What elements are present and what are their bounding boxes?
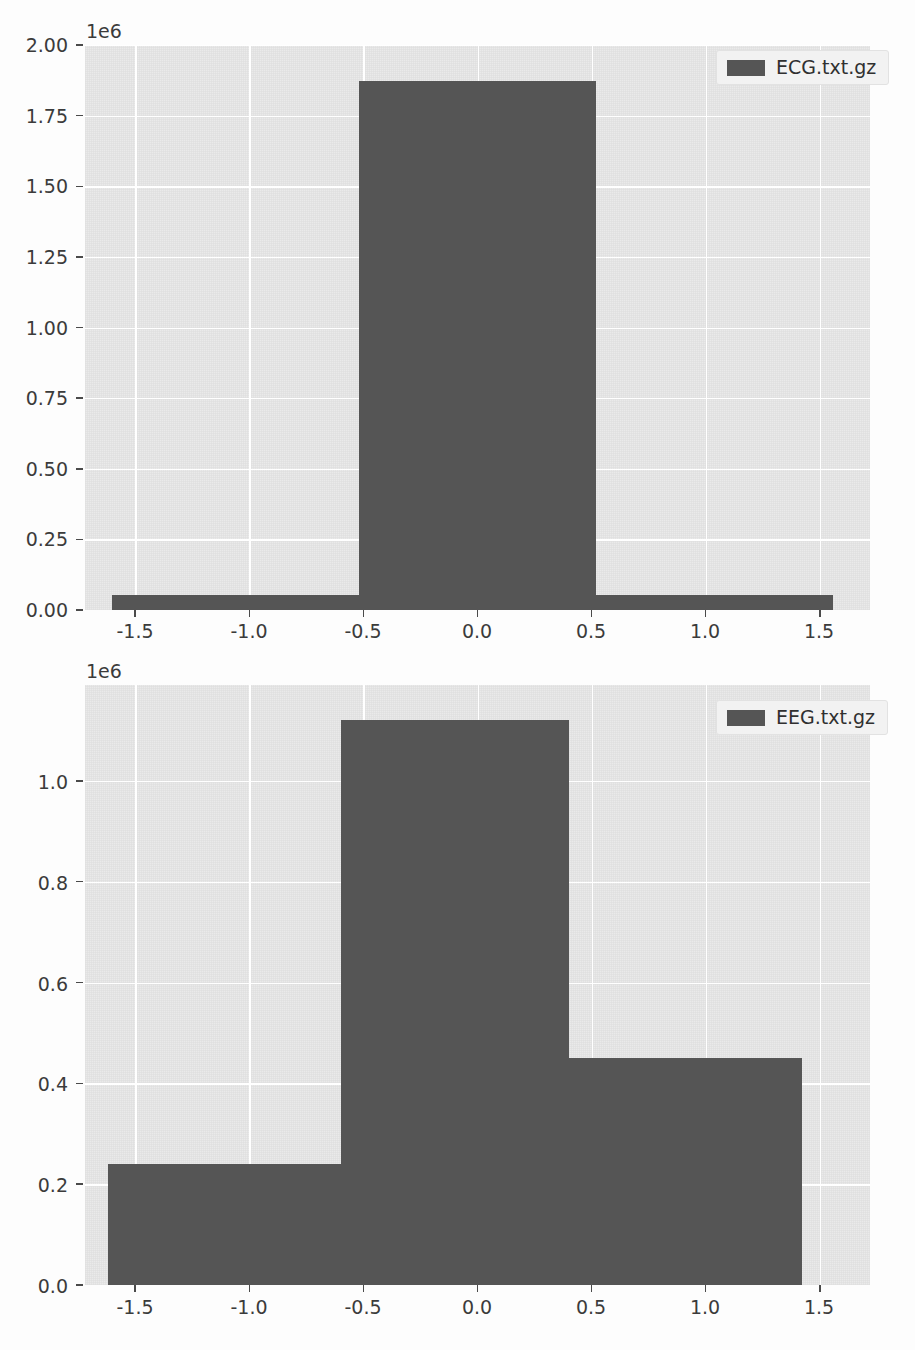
- xtick-label: -1.0: [209, 1298, 289, 1317]
- ytick-mark: [76, 397, 83, 399]
- ytick-label: 0.8: [12, 874, 68, 893]
- y-offset-text-ecg: 1e6: [86, 22, 122, 41]
- histogram-bar: [341, 720, 569, 1285]
- xtick-label: -0.5: [323, 622, 403, 641]
- xtick-mark: [363, 610, 365, 617]
- ytick-label: 0.00: [8, 601, 68, 620]
- xtick-label: 1.5: [779, 622, 859, 641]
- legend-swatch-icon: [727, 710, 765, 726]
- ytick-mark: [76, 186, 83, 188]
- ytick-label: 1.0: [12, 773, 68, 792]
- xtick-mark: [819, 610, 821, 617]
- histogram-bar: [359, 81, 596, 610]
- ytick-mark: [76, 881, 83, 883]
- xtick-label: 0.5: [551, 622, 631, 641]
- xtick-label: 1.5: [779, 1298, 859, 1317]
- ytick-label: 2.00: [8, 36, 68, 55]
- ytick-label: 1.00: [8, 319, 68, 338]
- xtick-label: 0.5: [551, 1298, 631, 1317]
- xtick-mark: [477, 610, 479, 617]
- legend-label: EEG.txt.gz: [776, 708, 875, 727]
- xtick-mark: [249, 1285, 251, 1292]
- y-offset-text-eeg: 1e6: [86, 662, 122, 681]
- ytick-label: 0.75: [8, 389, 68, 408]
- subplot-ecg: 1e6 2.: [0, 0, 915, 650]
- ytick-mark: [76, 780, 83, 782]
- ytick-mark: [76, 1183, 83, 1185]
- ytick-label: 0.50: [8, 460, 68, 479]
- ytick-mark: [76, 1083, 83, 1085]
- ytick-label: 1.50: [8, 177, 68, 196]
- xtick-mark: [591, 1285, 593, 1292]
- ytick-mark: [76, 327, 83, 329]
- gridline-x--1.5: [135, 45, 136, 610]
- plot-grid-layer-eeg: [85, 685, 870, 1285]
- histogram-bar: [112, 595, 359, 610]
- ytick-label: 0.25: [8, 530, 68, 549]
- ytick-label: 0.4: [12, 1075, 68, 1094]
- ytick-label: 0.0: [12, 1277, 68, 1296]
- xtick-mark: [249, 610, 251, 617]
- legend-ecg[interactable]: ECG.txt.gz: [716, 50, 889, 85]
- xtick-mark: [134, 610, 136, 617]
- ytick-mark: [76, 982, 83, 984]
- ytick-label: 0.6: [12, 975, 68, 994]
- histogram-bar: [569, 1058, 802, 1285]
- gridline-x-1.5: [820, 45, 821, 610]
- xtick-mark: [363, 1285, 365, 1292]
- xtick-label: 1.0: [665, 1298, 745, 1317]
- xtick-label: -1.5: [95, 1298, 175, 1317]
- legend-eeg[interactable]: EEG.txt.gz: [716, 700, 888, 735]
- xtick-label: -1.5: [95, 622, 175, 641]
- xtick-label: 1.0: [665, 622, 745, 641]
- ytick-label: 1.75: [8, 107, 68, 126]
- histogram-bar: [108, 1164, 341, 1285]
- xtick-label: 0.0: [437, 622, 517, 641]
- histogram-bar: [596, 595, 833, 610]
- plot-grid-layer-ecg: [85, 45, 870, 610]
- xtick-mark: [477, 1285, 479, 1292]
- ytick-mark: [76, 256, 83, 258]
- gridline-x--1.0: [249, 45, 250, 610]
- gridline-x-1.5: [820, 685, 821, 1285]
- ytick-label: 1.25: [8, 248, 68, 267]
- legend-swatch-icon: [727, 60, 765, 76]
- xtick-label: -1.0: [209, 622, 289, 641]
- ytick-mark: [76, 468, 83, 470]
- xtick-mark: [134, 1285, 136, 1292]
- figure-canvas: 1e6 2.: [0, 0, 915, 1350]
- xtick-mark: [705, 610, 707, 617]
- xtick-label: -0.5: [323, 1298, 403, 1317]
- ytick-mark: [76, 44, 83, 46]
- legend-label: ECG.txt.gz: [776, 58, 876, 77]
- ytick-mark: [76, 609, 83, 611]
- ytick-mark: [76, 539, 83, 541]
- xtick-mark: [705, 1285, 707, 1292]
- xtick-mark: [819, 1285, 821, 1292]
- xtick-label: 0.0: [437, 1298, 517, 1317]
- ytick-mark: [76, 1284, 83, 1286]
- subplot-eeg: 1e6 1.0 0.8: [0, 650, 915, 1350]
- ytick-label: 0.2: [12, 1176, 68, 1195]
- ytick-mark: [76, 115, 83, 117]
- gridline-x-1.0: [706, 45, 707, 610]
- xtick-mark: [591, 610, 593, 617]
